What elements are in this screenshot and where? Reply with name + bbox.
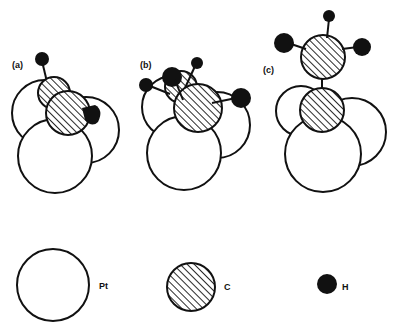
h-atom: [139, 78, 153, 92]
panel-a: [12, 52, 119, 193]
h-atom: [274, 33, 294, 53]
legend-label-pt: Pt: [99, 281, 108, 291]
molecule-diagram: [0, 0, 398, 328]
legend-pt-symbol: [17, 249, 89, 321]
h-atom: [323, 10, 335, 22]
panel-label-b: (b): [140, 60, 152, 70]
panel-label-a: (a): [12, 60, 23, 70]
h-atom: [231, 88, 251, 108]
h-atom: [353, 38, 371, 56]
panel-b: [139, 57, 251, 190]
legend-label-h: H: [342, 282, 349, 292]
legend-h-symbol: [317, 274, 337, 294]
c-atom-front: [174, 84, 222, 132]
panel-c: [274, 10, 386, 192]
legend-label-c: C: [224, 282, 231, 292]
legend: [17, 249, 337, 321]
legend-c-symbol: [167, 263, 215, 311]
c-atom-upper: [301, 35, 345, 79]
figure: (a) (b) (c) Pt C H: [0, 0, 398, 328]
panel-label-c: (c): [263, 65, 274, 75]
h-atom: [162, 67, 182, 87]
h-atom: [191, 57, 203, 69]
c-atom-lower: [300, 88, 344, 132]
h-atom: [35, 52, 49, 66]
